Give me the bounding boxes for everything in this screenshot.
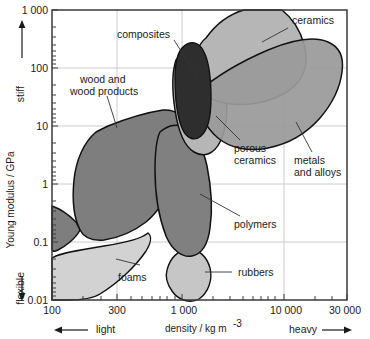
x-tick-label: 10 000	[270, 304, 302, 316]
series-label-polymers: polymers	[234, 218, 277, 230]
x-tick-label: 1 000	[171, 304, 197, 316]
series-label-porous-line1: porous	[234, 142, 266, 154]
series-label-ceramics: ceramics	[292, 14, 334, 26]
light-label: light	[96, 323, 115, 335]
heavy-label: heavy	[289, 323, 318, 335]
series-label-metals-line1: metals	[294, 154, 325, 166]
series-label-wood-line2: wood products	[69, 85, 138, 97]
ashby-chart: 1 000 100 10 1 0.1 0.01 100 300 1 000 10…	[0, 0, 370, 339]
series-label-rubbers: rubbers	[238, 266, 274, 278]
x-axis-title-exponent: -3	[233, 318, 242, 329]
chart-svg: 1 000 100 10 1 0.1 0.01 100 300 1 000 10…	[0, 0, 370, 339]
series-label-foams: foams	[118, 271, 147, 283]
y-tick-label: 10	[36, 120, 48, 132]
x-tick-label: 300	[108, 304, 126, 316]
stiff-label: stiff	[14, 86, 26, 102]
series-label-wood-line1: wood and	[79, 73, 126, 85]
y-tick-label: 0.1	[33, 236, 48, 248]
y-tick-label: 100	[30, 62, 48, 74]
x-tick-label: 100	[43, 304, 61, 316]
series-label-metals-line2: and alloys	[294, 166, 341, 178]
series-label-composites: composites	[117, 28, 170, 40]
y-tick-label: 1	[42, 178, 48, 190]
series-label-porous-line2: ceramics	[234, 154, 276, 166]
y-axis-title: Young modulus / GPa	[5, 151, 16, 248]
x-tick-label: 30 000	[329, 304, 361, 316]
x-axis-title-text: density / kg m	[165, 323, 227, 334]
envelope-composites	[175, 43, 211, 139]
flexible-label: flexible	[14, 272, 26, 305]
y-tick-label: 1 000	[22, 4, 48, 16]
